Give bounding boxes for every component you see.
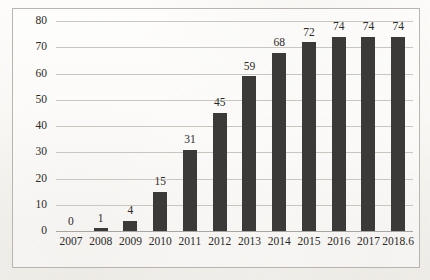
bar-group: 15 xyxy=(145,21,175,231)
bar-series: 014153145596872747474 xyxy=(56,21,413,231)
x-axis-tick-label: 2017 xyxy=(357,236,380,248)
bar xyxy=(183,150,197,231)
plot-area: 01020304050607080 014153145596872747474 xyxy=(56,21,413,231)
bar xyxy=(123,221,137,232)
bar-value-label: 31 xyxy=(184,134,196,146)
bar-group: 59 xyxy=(235,21,265,231)
y-axis-tick-label: 70 xyxy=(36,42,48,54)
bar-value-label: 4 xyxy=(128,205,134,217)
bar xyxy=(213,113,227,231)
bar-group: 72 xyxy=(294,21,324,231)
bar xyxy=(242,76,256,231)
bar-value-label: 15 xyxy=(154,176,166,188)
bar-value-label: 72 xyxy=(303,27,315,39)
y-axis-tick-label: 20 xyxy=(36,173,48,185)
bar-group: 74 xyxy=(383,21,413,231)
y-axis-tick-label: 60 xyxy=(36,68,48,80)
bar-value-label: 1 xyxy=(98,213,104,225)
bar-value-label: 45 xyxy=(214,97,226,109)
x-axis-tick-label: 2010 xyxy=(149,236,172,248)
y-axis-tick-label: 40 xyxy=(36,120,48,132)
x-axis-tick-labels: 2007200820092010201120122013201420152016… xyxy=(56,236,413,256)
x-axis-tick-label: 2012 xyxy=(208,236,231,248)
bar xyxy=(391,37,405,231)
x-axis-tick-label: 2015 xyxy=(297,236,320,248)
bar-value-label: 59 xyxy=(244,61,256,73)
bar xyxy=(302,42,316,231)
bar xyxy=(361,37,375,231)
x-axis-tick-label: 2009 xyxy=(119,236,142,248)
bar-group: 45 xyxy=(205,21,235,231)
bar-group: 4 xyxy=(116,21,146,231)
bar-value-label: 68 xyxy=(273,37,285,49)
bar-group: 0 xyxy=(56,21,86,231)
bar-value-label: 0 xyxy=(68,216,74,228)
y-axis-tick-label: 80 xyxy=(36,15,48,27)
bar-group: 74 xyxy=(324,21,354,231)
chart-frame: 01020304050607080 014153145596872747474 … xyxy=(12,8,420,268)
bar xyxy=(94,228,108,231)
x-axis-tick-label: 2013 xyxy=(238,236,261,248)
bar-value-label: 74 xyxy=(392,21,404,33)
x-axis-tick-label: 2014 xyxy=(268,236,291,248)
y-axis-tick-label: 50 xyxy=(36,94,48,106)
bar-group: 1 xyxy=(86,21,116,231)
bar-value-label: 74 xyxy=(333,21,345,33)
bar-group: 74 xyxy=(354,21,384,231)
x-axis-line xyxy=(56,231,413,232)
bar xyxy=(332,37,346,231)
x-axis-tick-label: 2018.6 xyxy=(382,236,414,248)
bar-value-label: 74 xyxy=(363,21,375,33)
x-axis-tick-label: 2008 xyxy=(89,236,112,248)
x-axis-tick-label: 2007 xyxy=(59,236,82,248)
y-axis-tick-label: 10 xyxy=(36,199,48,211)
bar-group: 31 xyxy=(175,21,205,231)
x-axis-tick-label: 2016 xyxy=(327,236,350,248)
y-axis-tick-label: 30 xyxy=(36,147,48,159)
x-axis-tick-label: 2011 xyxy=(179,236,202,248)
bar xyxy=(153,192,167,231)
bar xyxy=(272,53,286,232)
bar-group: 68 xyxy=(264,21,294,231)
y-axis-tick-label: 0 xyxy=(41,225,47,237)
